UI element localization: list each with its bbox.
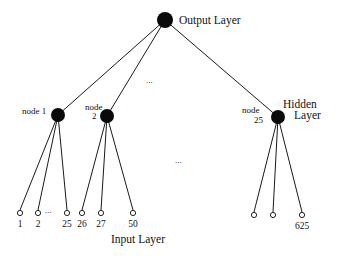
edge-node2-input-3 — [82, 116, 107, 210]
output-layer-label: Output Layer — [179, 14, 241, 27]
input-node — [299, 212, 304, 217]
input-node-label: 25 — [62, 219, 72, 229]
hidden-node-2-label-line2: 2 — [92, 111, 97, 121]
input-node — [35, 210, 40, 215]
input-node — [79, 210, 84, 215]
input-node — [98, 210, 103, 215]
edge-node25-input-7 — [273, 117, 278, 212]
edge-output-node1 — [58, 20, 165, 115]
input-node — [64, 210, 69, 215]
hidden-node-25-label-line2: 25 — [254, 115, 264, 125]
edge-node25-input-6 — [254, 117, 278, 212]
input-node — [251, 212, 256, 217]
input-node — [130, 210, 135, 215]
input-node — [270, 212, 275, 217]
edge-output-node2 — [107, 20, 165, 116]
edge-node1-input-2 — [58, 115, 67, 210]
input-node — [17, 210, 22, 215]
input-layer-nodes: 1225262750625 — [17, 210, 309, 231]
input-node-label: 625 — [295, 221, 310, 231]
hidden-node-node25 — [271, 110, 285, 124]
input-layer-label: Input Layer — [111, 233, 165, 246]
hidden-ellipsis: ... — [146, 75, 153, 85]
output-node — [157, 12, 173, 28]
hidden-node-25-label-line1: node — [242, 105, 260, 115]
hidden-node-node1 — [51, 108, 65, 122]
edge-output-node25 — [165, 20, 278, 117]
edge-node1-input-0 — [20, 115, 58, 210]
edge-node2-input-4 — [101, 116, 107, 210]
hidden-node-1-label: node 1 — [22, 106, 46, 116]
input-node-label: 50 — [128, 219, 138, 229]
hidden-layer-label-line2: Layer — [294, 109, 321, 122]
edge-node1-input-1 — [38, 115, 58, 210]
middle-ellipsis: ... — [175, 155, 182, 165]
input-node-label: 27 — [96, 219, 106, 229]
edge-node25-input-8 — [278, 117, 302, 212]
input-node-label: 2 — [36, 219, 41, 229]
edge-node2-input-5 — [107, 116, 133, 210]
neural-network-diagram: Output Layer node 1 node 2 node 25 Hidde… — [0, 0, 338, 257]
input-node-label: 26 — [77, 219, 87, 229]
input-ellipsis: ... — [45, 205, 52, 215]
input-node-label: 1 — [18, 219, 23, 229]
